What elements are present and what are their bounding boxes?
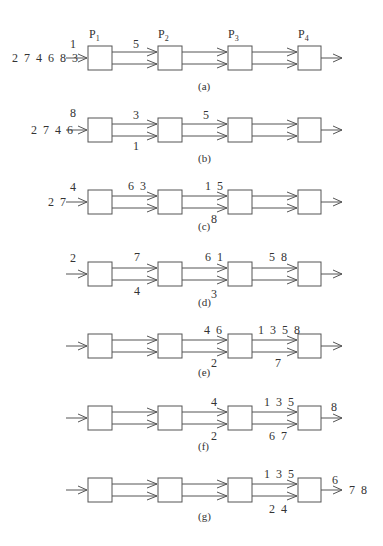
p3p4-top-label: 5 8	[269, 250, 289, 264]
pipeline-merge-sort-diagram: P1 P2 P3 P4 2 7 4 6 8 3 1 5 (a) 2 7 4 6 …	[0, 0, 383, 546]
panel-f: 4 2 1 3 5 6 7 8 (f)	[66, 395, 342, 453]
panel-caption: (a)	[198, 80, 211, 93]
svg-text:P1: P1	[89, 27, 100, 43]
p1p2-top-label: 3	[133, 108, 141, 122]
pipeline-row	[66, 190, 342, 214]
pipeline-row	[66, 334, 342, 358]
pipeline-row	[66, 478, 342, 502]
panel-caption: (g)	[198, 510, 211, 523]
svg-text:P3: P3	[228, 27, 239, 43]
p1p2-top-label: 6 3	[128, 179, 148, 193]
input-queue: 2 7 4 6 8 3	[12, 51, 80, 65]
p2p3-bottom-label: 2	[211, 429, 219, 443]
output-done-label: 7 8	[349, 483, 369, 497]
panel-caption: (c)	[198, 220, 211, 233]
processor-label-p2: P2	[158, 27, 169, 43]
pipeline-row	[66, 406, 342, 430]
p1p2-top-label: 7	[134, 250, 142, 264]
panel-b: 2 7 4 6 8 3 1 5 (b)	[31, 106, 342, 165]
panel-caption: (e)	[198, 366, 211, 379]
input-arrow-label: 2	[70, 251, 78, 265]
svg-text:P2: P2	[158, 27, 169, 43]
processor-label-p4: P4	[298, 27, 309, 43]
panel-c: 2 7 4 6 3 1 5 8 (c)	[48, 179, 342, 233]
pipeline-row	[66, 46, 342, 70]
p3p4-bottom-label: 6 7	[269, 429, 289, 443]
p3p4-bottom-label: 7	[275, 356, 283, 370]
p2p3-bottom-label: 2	[211, 356, 219, 370]
panel-e: 4 6 2 1 3 5 8 7 (e)	[66, 323, 342, 379]
p2p3-top-label: 5	[203, 108, 211, 122]
p1p2-bottom-label: 4	[134, 284, 142, 298]
p3p4-top-label: 1 3 5	[264, 395, 296, 409]
input-queue: 2 7	[48, 195, 68, 209]
processor-label-p1: P1	[89, 27, 100, 43]
p3p4-top-label: 1 3 5	[264, 467, 296, 481]
output-arrow-label: 8	[331, 400, 339, 414]
panel-caption: (b)	[198, 152, 211, 165]
p2p3-top-label: 4	[211, 395, 219, 409]
pipeline-row	[66, 262, 342, 286]
p2p3-bottom-label: 3	[211, 287, 219, 301]
p2p3-top-label: 1 5	[205, 179, 225, 193]
svg-text:P4: P4	[298, 27, 309, 43]
panel-g: 1 3 5 2 4 6 7 8 (g)	[66, 467, 369, 523]
input-queue: 2 7 4 6	[31, 123, 75, 137]
input-arrow-label: 8	[70, 106, 78, 120]
panel-caption: (d)	[198, 296, 211, 309]
panel-caption: (f)	[198, 440, 209, 453]
input-arrow-label: 4	[70, 180, 78, 194]
p3p4-top-label: 1 3 5 8	[258, 323, 302, 337]
p3p4-bottom-label: 2 4	[269, 502, 289, 516]
p2p3-top-label: 4 6	[204, 323, 224, 337]
processor-label-p3: P3	[228, 27, 239, 43]
p1p2-bottom-label: 1	[133, 139, 141, 153]
panel-a: 2 7 4 6 8 3 1 5 (a)	[12, 37, 342, 93]
panel-d: 2 7 4 6 1 3 5 8 (d)	[66, 250, 342, 309]
output-arrow-label: 6	[332, 473, 340, 487]
input-arrow-label: 1	[70, 37, 78, 51]
p2p3-top-label: 6 1	[205, 250, 225, 264]
p1p2-top-label: 5	[133, 37, 141, 51]
p2p3-bottom-label: 8	[211, 212, 219, 226]
